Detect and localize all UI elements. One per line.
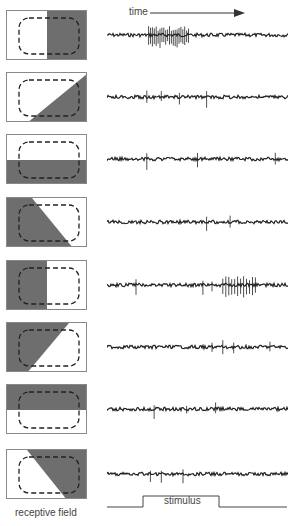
receptive-field-box — [6, 72, 87, 122]
spike-trace — [107, 454, 288, 494]
receptive-field-box — [6, 449, 87, 499]
receptive-field-box — [6, 384, 87, 434]
spike-trace — [107, 139, 288, 179]
spike-trace — [107, 15, 288, 55]
receptive-field-box — [6, 197, 87, 247]
receptive-field-label: receptive field — [15, 507, 77, 518]
receptive-field-box — [6, 260, 87, 310]
spike-trace — [107, 389, 288, 429]
receptive-field-box — [6, 322, 87, 372]
spike-trace — [107, 265, 288, 305]
spike-trace — [107, 327, 288, 367]
spike-trace — [107, 77, 288, 117]
spike-trace — [107, 202, 288, 242]
receptive-field-box — [6, 134, 87, 184]
stimulus-label: stimulus — [164, 495, 201, 506]
receptive-field-box — [6, 10, 87, 60]
